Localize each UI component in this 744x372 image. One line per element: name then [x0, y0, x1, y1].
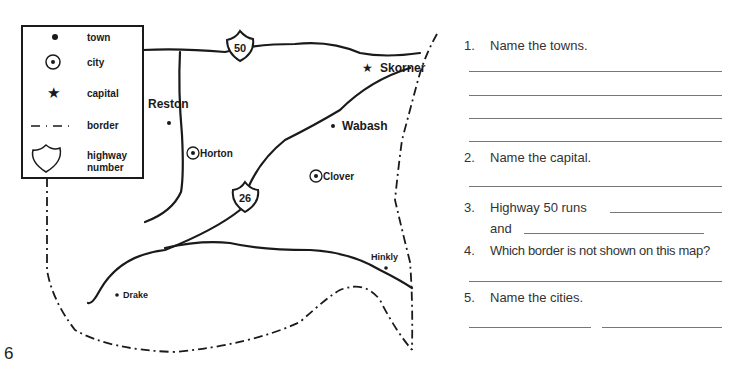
- west-south-border: [47, 178, 412, 352]
- town-dot-icon: [52, 34, 58, 40]
- answer-line-3a[interactable]: [610, 212, 722, 213]
- answer-line-4[interactable]: [469, 281, 722, 282]
- legend-label-highway: highway: [87, 150, 127, 161]
- highway-50-shield: 50: [227, 31, 253, 61]
- legend-label-highway-number: number: [87, 162, 124, 173]
- svg-text:Horton: Horton: [200, 148, 233, 159]
- place-wabash: Wabash: [331, 119, 388, 133]
- answer-line-1a[interactable]: [469, 71, 722, 72]
- legend-label-town: town: [87, 32, 110, 43]
- svg-text:Hinkly: Hinkly: [371, 252, 398, 262]
- answer-line-3b[interactable]: [524, 233, 704, 234]
- highway-26-shield: 26: [233, 182, 258, 212]
- place-drake: Drake: [115, 290, 148, 300]
- map-legend: town city ★ capital border highway numbe…: [22, 26, 143, 178]
- town-dot-icon: [115, 293, 119, 297]
- page-number: 6: [4, 344, 13, 364]
- svg-text:Wabash: Wabash: [342, 119, 388, 133]
- highway-50-road: [143, 43, 420, 55]
- place-reston: Reston: [148, 97, 189, 125]
- east-border: [395, 34, 437, 350]
- capital-star-icon: ★: [47, 84, 60, 101]
- answer-line-2[interactable]: [469, 186, 722, 187]
- svg-text:Reston: Reston: [148, 97, 189, 111]
- place-clover: Clover: [310, 170, 354, 182]
- legend-label-capital: capital: [87, 88, 119, 99]
- legend-label-border: border: [87, 120, 119, 131]
- highway-26-road: [88, 210, 240, 303]
- highway-26-number: 26: [239, 192, 251, 204]
- answer-line-5a[interactable]: [469, 327, 591, 328]
- capital-star-icon: ★: [362, 61, 373, 75]
- answer-line-5b[interactable]: [602, 327, 722, 328]
- answer-line-1b[interactable]: [469, 95, 722, 96]
- central-road: [165, 242, 412, 288]
- town-dot-icon: [167, 121, 171, 125]
- town-dot-icon: [384, 266, 388, 270]
- place-skorner: ★ Skorner: [362, 61, 426, 75]
- answer-line-1c[interactable]: [469, 118, 722, 119]
- svg-text:Drake: Drake: [123, 290, 148, 300]
- legend-label-city: city: [87, 57, 105, 68]
- town-dot-icon: [331, 124, 335, 128]
- highway-50-number: 50: [234, 42, 246, 54]
- answer-line-1d[interactable]: [469, 141, 722, 142]
- west-road: [145, 52, 183, 222]
- place-horton: Horton: [187, 147, 233, 159]
- svg-text:Skorner: Skorner: [380, 61, 426, 75]
- svg-text:Clover: Clover: [323, 171, 354, 182]
